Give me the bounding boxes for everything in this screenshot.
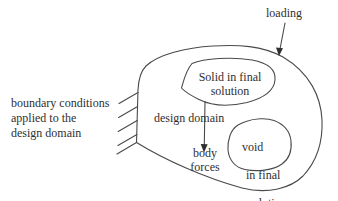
loading-arrow-shaft xyxy=(280,23,285,49)
void-region-label-line3: solution xyxy=(242,196,287,201)
void-region-label-line1: void xyxy=(242,140,287,154)
void-region-label: void in final solution xyxy=(242,126,287,201)
hatch-tick xyxy=(119,93,138,104)
boundary-conditions-label: boundary conditions applied to the desig… xyxy=(11,96,109,141)
loading-label: loading xyxy=(266,6,302,21)
boundary-hatch-marks xyxy=(117,93,138,155)
body-forces-label: body forces xyxy=(184,146,226,174)
hatch-tick xyxy=(118,121,137,132)
solid-region-label: Solid in final solution xyxy=(186,70,274,98)
body-forces-arrow xyxy=(201,102,208,153)
hatch-tick xyxy=(119,107,138,118)
void-region-label-line2: in final xyxy=(242,168,287,182)
loading-arrow xyxy=(276,23,285,56)
loading-arrowhead-icon xyxy=(276,48,283,57)
diagram-page: loading boundary conditions applied to t… xyxy=(0,0,338,201)
design-domain-label: design domain xyxy=(154,111,224,126)
